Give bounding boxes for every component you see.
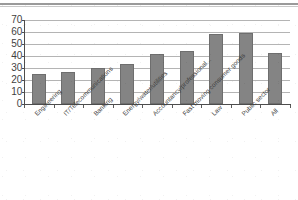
y-axis-tick-label: 70 [2, 15, 22, 25]
y-axis-tick-label: 60 [2, 27, 22, 37]
gridline [24, 20, 290, 21]
figure-top-rule-shadow [0, 6, 298, 7]
bar [268, 53, 282, 104]
y-axis-tick-label: 40 [2, 51, 22, 61]
plot-area [24, 20, 290, 104]
y-axis-line [24, 20, 25, 105]
x-axis-category-label: Law [210, 104, 223, 117]
bar [239, 33, 253, 104]
bar [209, 34, 223, 104]
y-axis-tick-label: 10 [2, 87, 22, 97]
x-axis-category-label: All [269, 107, 279, 117]
y-axis-tick-label: 30 [2, 63, 22, 73]
y-axis-tick-label: 50 [2, 39, 22, 49]
figure-top-rule [0, 3, 298, 5]
y-axis-tick-label: 20 [2, 75, 22, 85]
y-axis-tick-labels: 706050403020100 [0, 20, 22, 105]
bar-chart: 706050403020100 EngineeringIT/Telecommun… [0, 8, 298, 200]
x-axis-category-labels: EngineeringIT/TelecommunicationsBankingE… [0, 108, 298, 200]
bar [120, 64, 134, 104]
